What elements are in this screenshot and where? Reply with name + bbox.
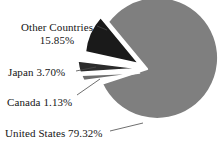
pie-label-canada: Canada 1.13% <box>7 96 72 109</box>
pie-label-japan: Japan 3.70% <box>8 66 65 79</box>
pie-label-united-states: United States 79.32% <box>5 127 103 140</box>
pie-label-other-countries-name: Other Countries <box>21 21 93 33</box>
pie-label-other-countries: Other Countries 15.85% <box>9 21 105 46</box>
leader-line-canada <box>77 79 100 95</box>
pie-label-other-countries-value: 15.85% <box>9 34 105 47</box>
pie-chart-figure: Other Countries 15.85% Japan 3.70% Canad… <box>0 0 222 156</box>
leader-line-united-states <box>110 123 143 131</box>
